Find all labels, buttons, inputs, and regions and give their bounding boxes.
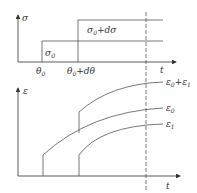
sigma-axis-label: σ — [22, 13, 29, 23]
lower-t-label: t — [166, 181, 170, 191]
epsilon0-curve — [43, 108, 163, 176]
creep-superposition-diagram: σ t σ0 σ0+dσ θ0 θ0+dθ ε t ε0+ε1 ε0 ε1 — [0, 0, 197, 193]
sigma0-label: σ0 — [45, 48, 55, 59]
upper-t-label: t — [160, 65, 164, 75]
epsilon0-label: ε0 — [166, 103, 175, 114]
epsilon1-label: ε1 — [166, 119, 175, 130]
upper-plot: σ t σ0 σ0+dσ θ0 θ0+dθ — [18, 13, 176, 77]
sigma0-plus-dsigma-label: σ0+dσ — [87, 25, 117, 36]
epsilon1-curve — [79, 124, 163, 176]
theta0-plus-dtheta-tick-label: θ0+dθ — [67, 66, 96, 77]
lower-plot: ε t ε0+ε1 ε0 ε1 — [18, 77, 191, 191]
sigma0-step — [42, 41, 163, 62]
epsilon-sum-label: ε0+ε1 — [166, 77, 191, 88]
epsilon-sum-curve — [79, 82, 163, 133]
theta0-tick-label: θ0 — [36, 66, 45, 77]
epsilon-axis-label: ε — [23, 86, 28, 96]
